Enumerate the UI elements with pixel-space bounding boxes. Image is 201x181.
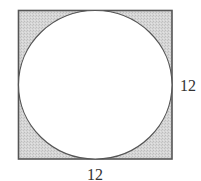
inscribed-circle <box>19 11 173 160</box>
inscribed-circle-diagram: 12 12 <box>0 0 201 181</box>
side-label-right: 12 <box>180 77 196 94</box>
side-label-bottom: 12 <box>87 166 103 181</box>
